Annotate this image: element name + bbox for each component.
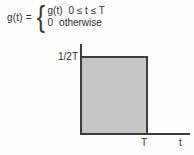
- case-row-2: 0 otherwise: [48, 17, 105, 29]
- pulse-function-figure: g(t) = { g(t) 0 ≤ t ≤ T 0 otherwise 1/2T…: [0, 0, 194, 155]
- formula-lhs: g(t) =: [7, 12, 32, 23]
- x-axis: [80, 133, 190, 135]
- case-1-condition: 0 ≤ t ≤ T: [69, 5, 105, 17]
- case-2-condition: otherwise: [59, 17, 102, 29]
- case-1-value: g(t): [48, 5, 63, 17]
- y-axis: [80, 44, 82, 135]
- left-brace: {: [37, 4, 45, 30]
- piecewise-definition: g(t) = { g(t) 0 ≤ t ≤ T 0 otherwise: [7, 4, 105, 30]
- amplitude-label: 1/2T: [46, 51, 78, 62]
- x-tick-label: T: [138, 137, 150, 148]
- case-row-1: g(t) 0 ≤ t ≤ T: [48, 5, 105, 17]
- case-2-value: 0: [48, 17, 54, 29]
- x-axis-label: t: [179, 137, 182, 148]
- formula-cases: g(t) 0 ≤ t ≤ T 0 otherwise: [48, 5, 105, 29]
- pulse-rectangle: [80, 56, 148, 135]
